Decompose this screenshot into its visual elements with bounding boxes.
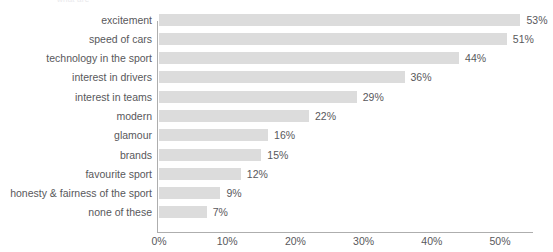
category-label: interest in drivers	[72, 72, 152, 83]
category-label: speed of cars	[89, 34, 152, 45]
bar-track: 36%	[159, 71, 553, 83]
horizontal-bar-chart: what are excitement53%speed of cars51%te…	[0, 0, 553, 252]
bar-track: 53%	[159, 14, 553, 26]
bar-track: 16%	[159, 129, 553, 141]
bar-track: 51%	[159, 33, 553, 45]
bar-track: 22%	[159, 110, 553, 122]
bar-row: glamour16%	[0, 126, 553, 145]
bar-value-label: 51%	[513, 34, 534, 45]
category-label: technology in the sport	[46, 53, 152, 64]
bar	[159, 187, 220, 199]
bar	[159, 168, 241, 180]
category-label: glamour	[114, 130, 152, 141]
x-tick-label: 40%	[421, 236, 442, 247]
bar-value-label: 16%	[274, 130, 295, 141]
category-label: none of these	[88, 207, 152, 218]
bar-value-label: 15%	[267, 149, 288, 160]
y-axis-line	[157, 21, 158, 233]
bar-row: modern22%	[0, 106, 553, 125]
bar	[159, 14, 520, 26]
bar-row: interest in teams29%	[0, 87, 553, 106]
bar	[159, 71, 405, 83]
bar-row: speed of cars51%	[0, 29, 553, 48]
category-label: favourite sport	[85, 169, 152, 180]
x-tick-label: 50%	[489, 236, 510, 247]
bar	[159, 110, 309, 122]
plot-area: excitement53%speed of cars51%technology …	[0, 10, 553, 222]
x-tick-label: 10%	[217, 236, 238, 247]
clipped-chart-title: what are	[57, 0, 89, 3]
x-tick-label: 30%	[353, 236, 374, 247]
bar	[159, 206, 207, 218]
category-label: modern	[116, 111, 152, 122]
x-tick-label: 20%	[285, 236, 306, 247]
category-label: interest in teams	[75, 91, 152, 102]
bar-track: 7%	[159, 206, 553, 218]
bar-value-label: 9%	[226, 188, 241, 199]
bar-value-label: 29%	[363, 91, 384, 102]
bar-value-label: 44%	[465, 53, 486, 64]
bar-value-label: 7%	[213, 207, 228, 218]
bar-track: 15%	[159, 149, 553, 161]
bar-track: 12%	[159, 168, 553, 180]
bar-row: honesty & fairness of the sport9%	[0, 183, 553, 202]
bar-value-label: 36%	[411, 72, 432, 83]
bar-value-label: 53%	[526, 14, 547, 25]
x-axis-line	[157, 232, 533, 233]
bar-row: excitement53%	[0, 10, 553, 29]
bar-track: 9%	[159, 187, 553, 199]
bar	[159, 52, 459, 64]
bar-row: interest in drivers36%	[0, 68, 553, 87]
bar-row: brands15%	[0, 145, 553, 164]
bar	[159, 129, 268, 141]
x-tick-label: 0%	[151, 236, 166, 247]
bar-row: none of these7%	[0, 203, 553, 222]
category-label: excitement	[101, 14, 152, 25]
category-label: honesty & fairness of the sport	[10, 188, 152, 199]
bar-row: technology in the sport44%	[0, 49, 553, 68]
bar-track: 29%	[159, 91, 553, 103]
bar	[159, 33, 507, 45]
bar-value-label: 12%	[247, 169, 268, 180]
category-label: brands	[120, 149, 152, 160]
bar	[159, 149, 261, 161]
bar-track: 44%	[159, 52, 553, 64]
bar-value-label: 22%	[315, 111, 336, 122]
bar-row: favourite sport12%	[0, 164, 553, 183]
bar	[159, 91, 357, 103]
